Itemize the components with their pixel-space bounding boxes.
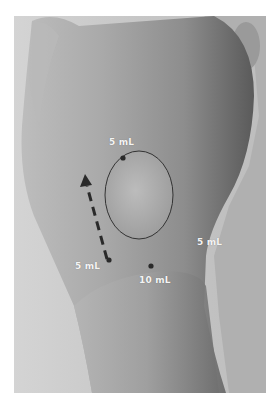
volume-label-bottom: 10 mL (139, 275, 171, 285)
volume-label-left: 5 mL (75, 261, 100, 271)
photo-illustration (14, 16, 266, 393)
volume-label-top: 5 mL (109, 137, 134, 147)
wrist-photo (14, 16, 266, 393)
lesion-outline (105, 151, 173, 239)
injection-point-bottom (148, 263, 153, 268)
injection-point-left (106, 257, 111, 262)
volume-label-right: 5 mL (197, 237, 222, 247)
injection-point-top (120, 155, 125, 160)
